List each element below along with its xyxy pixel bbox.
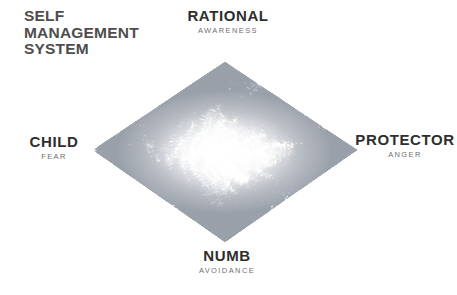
svg-text:RATIONAL: RATIONAL	[174, 52, 207, 121]
svg-text:RATIONAL: RATIONAL	[186, 73, 227, 123]
svg-text:NUMB: NUMB	[176, 183, 205, 225]
svg-text:ANGER: ANGER	[297, 132, 340, 151]
svg-text:NUMB: NUMB	[243, 177, 272, 207]
svg-text:RATIONAL: RATIONAL	[159, 51, 199, 126]
svg-text:NUMB: NUMB	[236, 192, 282, 226]
svg-text:NUMB: NUMB	[217, 192, 242, 218]
svg-text:NUMB: NUMB	[207, 203, 242, 237]
svg-text:FEAR: FEAR	[159, 167, 184, 202]
svg-text:RATIONAL: RATIONAL	[193, 85, 216, 134]
svg-text:NUMB: NUMB	[181, 193, 222, 240]
svg-text:RATIONAL: RATIONAL	[182, 95, 195, 138]
svg-text:NUMB: NUMB	[206, 191, 236, 227]
svg-text:FEAR: FEAR	[152, 134, 168, 159]
svg-text:RATIONAL: RATIONAL	[178, 57, 230, 116]
svg-text:FEAR: FEAR	[108, 107, 134, 150]
svg-text:RATIONAL: RATIONAL	[275, 131, 320, 144]
svg-text:RATIONAL: RATIONAL	[171, 93, 183, 148]
svg-text:NUMB: NUMB	[174, 170, 191, 201]
svg-text:NUMB: NUMB	[244, 177, 283, 204]
svg-text:NUMB: NUMB	[239, 179, 272, 204]
svg-text:FEAR: FEAR	[140, 144, 161, 174]
svg-text:RATIONAL: RATIONAL	[248, 98, 312, 118]
svg-text:RATIONAL: RATIONAL	[273, 103, 343, 136]
svg-text:ANGER: ANGER	[302, 149, 350, 175]
svg-text:RATIONAL: RATIONAL	[165, 66, 193, 133]
svg-text:FEAR: FEAR	[164, 139, 175, 158]
svg-text:RATIONAL: RATIONAL	[171, 36, 225, 113]
svg-text:NUMB: NUMB	[183, 186, 219, 218]
svg-text:NUMB: NUMB	[200, 203, 236, 246]
svg-text:FEAR: FEAR	[126, 139, 144, 172]
svg-text:RATIONAL: RATIONAL	[249, 95, 319, 118]
svg-text:NUMB: NUMB	[190, 176, 218, 204]
svg-text:NUMB: NUMB	[184, 198, 227, 235]
svg-text:RATIONAL: RATIONAL	[240, 70, 313, 120]
svg-text:RATIONAL: RATIONAL	[190, 93, 206, 138]
svg-text:ANGER: ANGER	[257, 113, 291, 131]
svg-text:ANGER: ANGER	[272, 169, 319, 201]
svg-text:RATIONAL: RATIONAL	[167, 76, 190, 140]
svg-text:RATIONAL: RATIONAL	[205, 57, 255, 104]
svg-text:RATIONAL: RATIONAL	[205, 58, 261, 108]
svg-text:NUMB: NUMB	[215, 189, 235, 218]
svg-text:ANGER: ANGER	[294, 131, 333, 151]
svg-text:RATIONAL: RATIONAL	[198, 60, 238, 112]
svg-text:NUMB: NUMB	[213, 182, 231, 204]
svg-text:RATIONAL: RATIONAL	[232, 87, 268, 137]
svg-text:NUMB: NUMB	[236, 182, 265, 215]
svg-text:RATIONAL: RATIONAL	[149, 52, 212, 122]
svg-text:ANGER: ANGER	[261, 116, 294, 126]
svg-text:NUMB: NUMB	[234, 188, 274, 217]
svg-text:ANGER: ANGER	[280, 151, 313, 166]
svg-text:NUMB: NUMB	[280, 166, 329, 200]
svg-text:ANGER: ANGER	[255, 170, 288, 187]
svg-text:RATIONAL: RATIONAL	[232, 80, 292, 115]
svg-text:RATIONAL: RATIONAL	[218, 47, 278, 110]
svg-text:RATIONAL: RATIONAL	[273, 114, 335, 144]
svg-text:NUMB: NUMB	[216, 210, 249, 252]
svg-text:RATIONAL: RATIONAL	[176, 72, 221, 123]
svg-text:RATIONAL: RATIONAL	[263, 121, 319, 135]
svg-text:RATIONAL: RATIONAL	[241, 70, 313, 125]
svg-text:RATIONAL: RATIONAL	[222, 55, 263, 113]
svg-text:RATIONAL: RATIONAL	[208, 40, 247, 104]
svg-text:FEAR: FEAR	[173, 149, 183, 169]
svg-text:ANGER: ANGER	[310, 127, 355, 155]
svg-text:NUMB: NUMB	[200, 178, 221, 205]
svg-text:FEAR: FEAR	[115, 150, 139, 192]
svg-text:RATIONAL: RATIONAL	[184, 51, 247, 100]
svg-text:RATIONAL: RATIONAL	[244, 98, 293, 141]
svg-text:FEAR: FEAR	[179, 130, 190, 148]
svg-text:NUMB: NUMB	[213, 180, 233, 206]
svg-text:NUMB: NUMB	[255, 182, 295, 229]
svg-text:NUMB: NUMB	[204, 183, 231, 209]
svg-text:RATIONAL: RATIONAL	[194, 43, 258, 88]
svg-text:NUMB: NUMB	[246, 191, 280, 234]
svg-text:ANGER: ANGER	[278, 171, 331, 190]
svg-text:NUMB: NUMB	[280, 149, 309, 165]
svg-text:NUMB: NUMB	[273, 146, 295, 159]
svg-text:NUMB: NUMB	[309, 145, 348, 171]
svg-text:RATIONAL: RATIONAL	[222, 70, 278, 123]
svg-text:FEAR: FEAR	[134, 107, 156, 144]
svg-text:NUMB: NUMB	[223, 202, 247, 239]
svg-text:FEAR: FEAR	[150, 126, 163, 155]
svg-text:RATIONAL: RATIONAL	[253, 130, 289, 153]
svg-text:ANGER: ANGER	[277, 174, 330, 192]
svg-text:NUMB: NUMB	[249, 185, 299, 224]
svg-text:NUMB: NUMB	[229, 152, 245, 170]
svg-text:RATIONAL: RATIONAL	[144, 130, 160, 174]
svg-text:NUMB: NUMB	[195, 200, 232, 239]
svg-text:ANGER: ANGER	[300, 154, 351, 181]
svg-text:RATIONAL: RATIONAL	[156, 54, 200, 129]
svg-text:ANGER: ANGER	[279, 120, 317, 132]
svg-text:RATIONAL: RATIONAL	[217, 57, 292, 102]
svg-text:NUMB: NUMB	[249, 161, 272, 176]
svg-text:FEAR: FEAR	[137, 144, 153, 171]
svg-text:RATIONAL: RATIONAL	[131, 105, 144, 162]
svg-text:RATIONAL: RATIONAL	[190, 43, 249, 92]
svg-text:NUMB: NUMB	[235, 160, 256, 170]
svg-text:FEAR: FEAR	[111, 149, 135, 191]
svg-text:ANGER: ANGER	[271, 101, 325, 127]
